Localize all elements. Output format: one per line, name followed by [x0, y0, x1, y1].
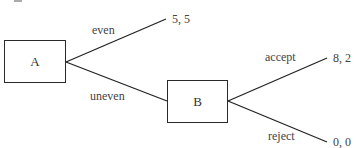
action-label-uneven: uneven — [90, 90, 125, 102]
action-label-reject: reject — [268, 130, 295, 142]
action-label-accept: accept — [265, 51, 296, 63]
payoff-reject: 0, 0 — [333, 136, 351, 148]
payoff-accept: 8, 2 — [333, 52, 351, 64]
node-a: A — [4, 40, 66, 83]
edge-even — [66, 19, 166, 62]
node-b-label: B — [193, 94, 202, 110]
node-a-label: A — [30, 54, 39, 70]
edge-accept — [228, 58, 327, 101]
action-label-even: even — [92, 24, 115, 36]
node-b: B — [167, 80, 228, 123]
game-tree-diagram: A B even uneven accept reject 5, 5 8, 2 … — [0, 0, 359, 148]
payoff-even: 5, 5 — [172, 13, 190, 25]
